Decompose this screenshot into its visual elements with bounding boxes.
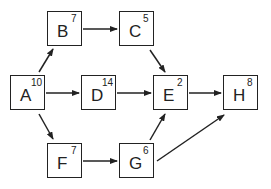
edge-c-to-e-arrow <box>150 50 165 72</box>
node-a: A10 <box>10 75 45 110</box>
node-f: F7 <box>47 143 82 178</box>
edge-a-to-b-arrow <box>39 49 53 72</box>
node-label: H <box>233 87 245 104</box>
node-label: D <box>91 87 103 104</box>
node-weight: 10 <box>31 78 42 88</box>
node-weight: 14 <box>102 78 113 88</box>
node-label: E <box>163 87 174 104</box>
node-weight: 7 <box>71 146 77 156</box>
node-weight: 8 <box>247 78 253 88</box>
edge-g-to-h-arrow <box>157 115 224 161</box>
node-label: A <box>20 87 31 104</box>
edge-a-to-f-arrow <box>39 114 53 139</box>
edge-g-to-e-arrow <box>150 114 165 140</box>
node-g: G6 <box>119 143 154 178</box>
precedence-network-diagram: A10B7C5D14E2F7G6H8 <box>0 0 271 189</box>
node-label: G <box>129 155 142 172</box>
node-weight: 7 <box>71 14 77 24</box>
node-weight: 6 <box>143 146 149 156</box>
node-weight: 2 <box>177 78 183 88</box>
node-e: E2 <box>153 75 188 110</box>
node-h: H8 <box>223 75 258 110</box>
node-d: D14 <box>81 75 116 110</box>
node-b: B7 <box>47 11 82 46</box>
node-c: C5 <box>119 11 154 46</box>
node-label: C <box>129 23 141 40</box>
node-label: B <box>57 23 68 40</box>
node-weight: 5 <box>143 14 149 24</box>
node-label: F <box>57 155 67 172</box>
